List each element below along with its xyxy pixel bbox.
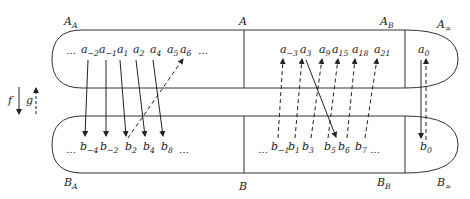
element-a2: a2 xyxy=(133,44,144,57)
element-a15: a15 xyxy=(332,44,348,57)
element-b0: b0 xyxy=(420,141,432,154)
region-label-b-inf: B∞ xyxy=(437,177,452,190)
element-a-neg1: a−1 xyxy=(99,44,117,57)
ellipsis: … xyxy=(370,145,380,155)
element-a0: a0 xyxy=(418,44,429,57)
element-b6: b6 xyxy=(338,141,350,154)
element-a1: a1 xyxy=(117,44,128,57)
element-b3: b3 xyxy=(302,141,314,154)
region-label-b: B xyxy=(239,181,247,192)
element-a4: a4 xyxy=(150,44,161,57)
region-label-a: A xyxy=(239,16,247,27)
region-label-b-b: BB xyxy=(377,177,391,190)
element-b2: b2 xyxy=(125,141,137,154)
region-label-a-inf: A∞ xyxy=(437,19,451,32)
element-b-neg4: b−4 xyxy=(80,141,98,154)
element-a18: a18 xyxy=(352,44,368,57)
element-a21: a21 xyxy=(374,44,390,57)
element-b5: b5 xyxy=(324,141,336,154)
bijection-diagram: AA A AB A∞ BA B BB B∞ … a−2 a−1 a1 a2 a4… xyxy=(0,0,470,199)
region-label-a-b: AB xyxy=(380,16,394,29)
legend-g-label: g xyxy=(26,95,33,106)
element-a9: a9 xyxy=(319,44,330,57)
region-label-b-a: BA xyxy=(64,177,78,190)
element-a-neg2: a−2 xyxy=(81,44,99,57)
element-a3: a3 xyxy=(300,44,311,57)
element-a5: a5 xyxy=(167,44,178,57)
element-b8: b8 xyxy=(161,141,173,154)
diagram-shapes xyxy=(0,0,470,199)
ellipsis: … xyxy=(179,145,189,155)
element-b-neg1: b−1 xyxy=(271,141,289,154)
f-arrows xyxy=(85,60,421,138)
g-arrows xyxy=(128,59,426,140)
element-b4: b4 xyxy=(143,141,155,154)
element-a-neg3: a−3 xyxy=(280,44,298,57)
element-a6: a6 xyxy=(180,44,191,57)
ellipsis: … xyxy=(198,46,208,56)
set-a-outline xyxy=(52,30,458,88)
ellipsis: … xyxy=(66,46,76,56)
ellipsis: … xyxy=(258,145,268,155)
region-label-a-a: AA xyxy=(64,16,78,29)
legend-f-label: f xyxy=(8,95,12,106)
element-b1: b1 xyxy=(288,141,300,154)
element-b7: b7 xyxy=(355,141,367,154)
element-b-neg2: b−2 xyxy=(100,141,118,154)
ellipsis: … xyxy=(66,145,76,155)
